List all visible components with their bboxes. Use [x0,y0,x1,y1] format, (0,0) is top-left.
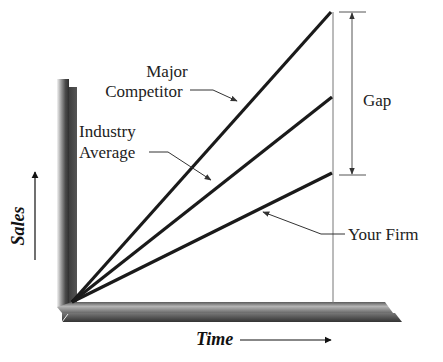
your-firm-line [72,173,332,302]
gap-bracket [339,12,366,175]
x-axis-bar [57,302,402,322]
y-axis-bar [57,79,77,307]
industry-average-label-line1: Industry [79,122,136,141]
your-firm-label: Your Firm [348,225,419,244]
gap-label: Gap [363,91,391,110]
x-axis-label: Time [196,329,233,349]
y-axis-label: Sales [8,206,28,245]
industry-average-label-line2: Average [79,143,135,162]
major-competitor-label-line1: Major [146,62,188,81]
sales-gap-diagram: Gap Major Competitor Industry Average Yo… [0,0,443,362]
major-competitor-pointer [190,90,237,101]
major-competitor-label-line2: Competitor [105,82,183,101]
